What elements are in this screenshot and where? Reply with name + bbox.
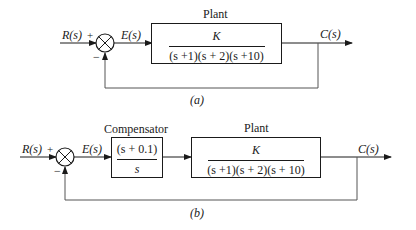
fraction-bar [169,46,265,47]
output-label-b: C(s) [358,143,379,155]
input-label-b: R(s) [22,143,42,155]
fraction-bar [208,160,304,161]
compensator-title: Compensator [104,123,168,135]
caption-a: (a) [190,94,204,106]
plant-denominator-a: (s +1)(s + 2)(s +10) [169,50,263,62]
plant-title-b: Plant [244,122,269,134]
caption-b: (b) [190,207,204,219]
plant-transfer-function-b: K (s +1)(s + 2)(s + 10) [192,144,320,176]
compensator-numerator: (s + 0.1) [117,143,157,155]
plant-transfer-function-a: K (s +1)(s + 2)(s +10) [152,30,281,62]
fraction-bar [117,159,157,160]
plant-numerator-a: K [212,30,220,42]
plant-title-a: Plant [203,8,228,20]
compensator-denominator: s [135,163,140,175]
plant-denominator-b: (s +1)(s + 2)(s + 10) [207,164,304,176]
minus-sign-b: − [54,165,61,177]
error-label-a: E(s) [121,29,141,41]
error-label-b: E(s) [82,143,102,155]
plant-numerator-b: K [252,144,260,156]
plant-block-b: K (s +1)(s + 2)(s + 10) [191,137,321,178]
plus-sign-b: + [47,144,53,155]
compensator-transfer-function: (s + 0.1) s [112,143,162,175]
compensator-block: (s + 0.1) s [111,137,163,178]
output-label-a: C(s) [320,28,341,40]
minus-sign-a: − [93,51,100,63]
input-label-a: R(s) [62,29,82,41]
plant-block-a: K (s +1)(s + 2)(s +10) [151,23,282,64]
plus-sign-a: + [87,30,93,41]
